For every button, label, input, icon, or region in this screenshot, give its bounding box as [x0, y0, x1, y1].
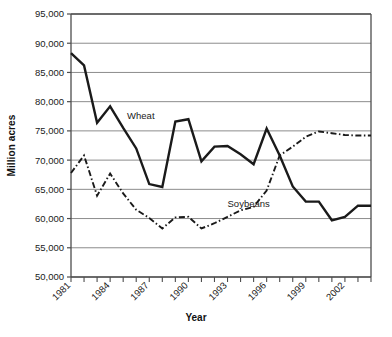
x-axis-tick-label: 1987: [128, 280, 151, 303]
x-axis-tick-label: 1999: [284, 280, 307, 303]
x-axis-tick-label: 1981: [50, 280, 73, 303]
x-axis-ticks-group: 19811984198719901993199619992002: [50, 277, 371, 302]
data-series-group: [71, 53, 371, 228]
y-axis-tick-label: 50,000: [35, 271, 64, 282]
series-annotation-wheat: Wheat: [127, 110, 155, 121]
x-axis-tick-label: 1993: [206, 280, 229, 303]
x-axis-tick-label: 1984: [89, 280, 112, 303]
x-axis-tick-label: 2002: [324, 280, 347, 303]
y-axis-tick-label: 85,000: [35, 67, 64, 78]
y-axis-tick-label: 70,000: [35, 155, 64, 166]
chart-plot-svg: 50,00055,00060,00065,00070,00075,00080,0…: [0, 0, 392, 337]
series-line-wheat: [71, 53, 371, 220]
series-annotation-soybeans: Soybeans: [228, 198, 271, 209]
y-axis-tick-label: 80,000: [35, 96, 64, 107]
y-axis-tick-label: 75,000: [35, 125, 64, 136]
y-axis-tick-label: 65,000: [35, 184, 64, 195]
y-axis-ticks-group: 50,00055,00060,00065,00070,00075,00080,0…: [35, 8, 71, 282]
y-axis-tick-label: 55,000: [35, 242, 64, 253]
x-axis-label: Year: [0, 312, 392, 323]
y-axis-tick-label: 95,000: [35, 8, 64, 19]
x-axis-tick-label: 1996: [245, 280, 268, 303]
y-axis-tick-label: 90,000: [35, 38, 64, 49]
y-axis-tick-label: 60,000: [35, 213, 64, 224]
x-axis-tick-label: 1990: [167, 280, 190, 303]
chart-container: Million acres 50,00055,00060,00065,00070…: [0, 0, 392, 337]
